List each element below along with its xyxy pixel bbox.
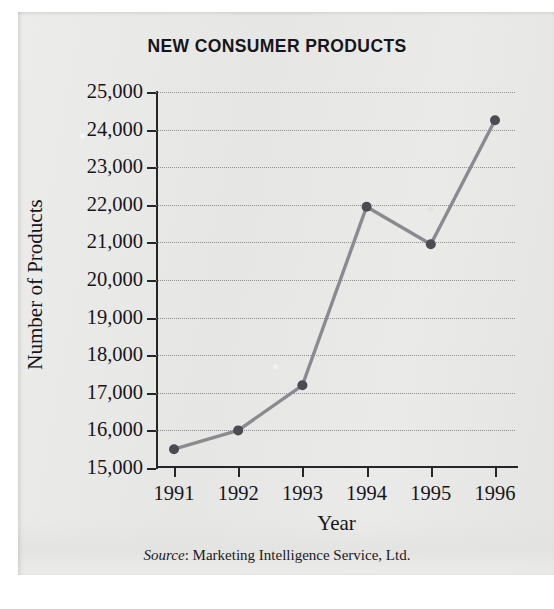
y-tick-label: 24,000 [87, 118, 143, 141]
y-tick-mark [147, 280, 156, 282]
y-tick-mark [147, 167, 156, 169]
y-tick-label: 22,000 [87, 193, 143, 216]
y-tick-mark [147, 318, 156, 320]
x-tick-label: 1993 [282, 482, 323, 505]
source-note: Source: Marketing Intelligence Service, … [0, 547, 554, 564]
x-tick-mark [367, 468, 369, 477]
data-point-marker [426, 239, 436, 249]
chart-title: NEW CONSUMER PRODUCTS [0, 36, 554, 57]
x-tick-label: 1996 [475, 482, 516, 505]
y-tick-label: 15,000 [87, 456, 143, 479]
source-label: Source [144, 547, 185, 563]
y-tick-label: 25,000 [87, 80, 143, 103]
y-tick-mark [147, 430, 156, 432]
data-point-marker [297, 380, 307, 390]
y-tick-label: 21,000 [87, 230, 143, 253]
plot-area: 25,00024,00023,00022,00021,00020,00019,0… [156, 92, 517, 468]
y-tick-label: 23,000 [87, 155, 143, 178]
data-point-marker [362, 202, 372, 212]
x-tick-label: 1994 [346, 482, 387, 505]
y-tick-mark [147, 242, 156, 244]
x-tick-label: 1992 [218, 482, 259, 505]
y-tick-mark [147, 355, 156, 357]
x-axis-title: Year [156, 511, 517, 536]
x-tick-mark [238, 468, 240, 477]
y-tick-label: 18,000 [87, 343, 143, 366]
y-tick-label: 16,000 [87, 418, 143, 441]
x-tick-mark [495, 468, 497, 477]
data-point-marker [233, 425, 243, 435]
data-point-marker [169, 444, 179, 454]
y-tick-mark [147, 130, 156, 132]
x-tick-label: 1991 [154, 482, 195, 505]
x-tick-mark [431, 468, 433, 477]
y-tick-mark [147, 468, 156, 470]
y-axis-title: Number of Products [23, 145, 48, 425]
y-tick-mark [147, 205, 156, 207]
y-tick-label: 20,000 [87, 268, 143, 291]
y-tick-mark [147, 92, 156, 94]
x-tick-mark [302, 468, 304, 477]
series-line [174, 120, 495, 449]
source-text: : Marketing Intelligence Service, Ltd. [185, 547, 411, 563]
y-tick-label: 19,000 [87, 306, 143, 329]
data-point-marker [490, 115, 500, 125]
x-tick-label: 1995 [410, 482, 451, 505]
y-tick-label: 17,000 [87, 381, 143, 404]
x-tick-mark [174, 468, 176, 477]
y-tick-mark [147, 393, 156, 395]
chart-figure: NEW CONSUMER PRODUCTS Number of Products… [0, 0, 554, 609]
data-series [156, 92, 517, 468]
